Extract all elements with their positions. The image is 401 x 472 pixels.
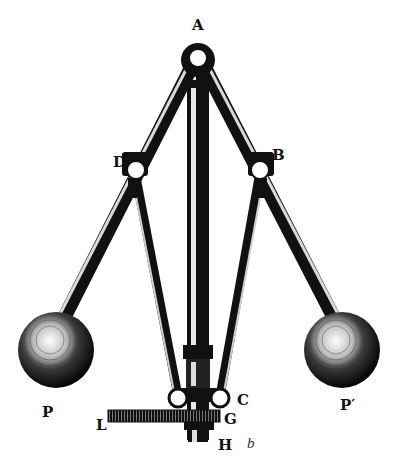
- ball-P: [18, 312, 94, 388]
- governor-diagram: A D B P P′ L C G H b: [0, 0, 401, 472]
- label-G: G: [224, 412, 237, 427]
- lower-link-left: [132, 172, 178, 396]
- label-b: b: [247, 436, 255, 451]
- label-L: L: [96, 418, 107, 433]
- label-A: A: [192, 18, 204, 33]
- lever-L: [108, 410, 220, 422]
- upper-arm-left: [58, 58, 196, 322]
- central-spindle: [180, 70, 216, 442]
- label-P-prime: P′: [340, 398, 355, 413]
- sleeve-joint-right: [211, 389, 229, 407]
- ball-P-prime: [304, 312, 380, 388]
- lower-link-right: [220, 172, 264, 396]
- pivot-A: [181, 43, 215, 77]
- upper-arm-right: [200, 58, 340, 322]
- label-C: C: [237, 393, 249, 408]
- label-P: P: [42, 405, 53, 420]
- sleeve-joint-left: [169, 389, 187, 407]
- label-B: B: [272, 148, 285, 163]
- label-H: H: [218, 438, 232, 453]
- label-D: D: [113, 155, 126, 170]
